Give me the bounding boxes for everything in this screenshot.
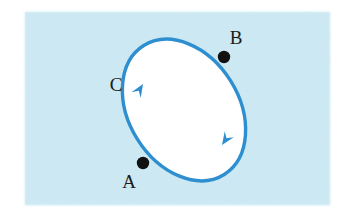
point-b-label: B <box>230 27 243 48</box>
point-a-dot <box>137 157 149 169</box>
figure-root: B A C <box>0 0 346 218</box>
annotation-c-label: C <box>110 74 123 95</box>
figure-canvas: B A C <box>0 0 346 218</box>
point-b-dot <box>218 51 230 63</box>
point-a-label: A <box>122 171 136 192</box>
